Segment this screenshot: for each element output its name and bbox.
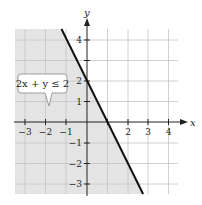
x-tick-label: −1: [59, 127, 72, 137]
x-axis-arrow-icon: [180, 119, 188, 125]
inequality-graph: −3 −2 −1 2 3 4 4 2 1 −1 −2 −3 x y 2x + y…: [0, 0, 202, 205]
y-axis-label: y: [83, 7, 90, 18]
x-tick-label: 4: [166, 127, 172, 137]
x-tick-label: 2: [125, 127, 131, 137]
y-tick-label: −1: [69, 138, 82, 148]
y-tick-label: −2: [69, 159, 82, 169]
x-tick-label: −2: [39, 127, 52, 137]
y-tick-label: −3: [69, 179, 83, 189]
x-tick-label: −3: [18, 127, 32, 137]
x-tick-label: 3: [145, 127, 151, 137]
callout-text: 2x + y ≤ 2: [16, 78, 70, 89]
y-tick-label: 2: [76, 76, 82, 86]
x-axis-label: x: [190, 117, 196, 128]
y-axis-arrow-icon: [84, 18, 90, 26]
y-tick-label: 1: [76, 97, 82, 107]
y-tick-label: 4: [76, 35, 82, 45]
